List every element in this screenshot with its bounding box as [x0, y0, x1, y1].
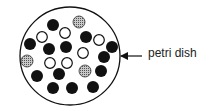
colony-gray: [73, 16, 85, 28]
colony-gray: [79, 65, 91, 77]
colony-gray: [21, 55, 33, 67]
colony-black: [53, 68, 65, 80]
colony-black: [95, 65, 107, 77]
colony-black: [66, 82, 78, 94]
colony-black: [60, 41, 72, 53]
colony-white: [45, 58, 56, 69]
colony-white: [94, 35, 105, 46]
arrow-icon: [120, 52, 142, 60]
colony-white: [60, 28, 71, 39]
colony-white: [37, 32, 48, 43]
colony-black: [47, 82, 59, 94]
colony-black: [43, 43, 55, 55]
colony-black: [98, 51, 110, 63]
colony-white: [78, 48, 89, 59]
petri-dish-label: petri dish: [148, 46, 197, 60]
colony-white: [62, 58, 73, 69]
colony-black: [47, 19, 59, 31]
colonies: [21, 16, 118, 94]
colony-black: [31, 70, 43, 82]
colony-black: [87, 81, 99, 93]
colony-black: [24, 38, 36, 50]
colony-black: [106, 41, 118, 53]
colony-black: [80, 31, 92, 43]
